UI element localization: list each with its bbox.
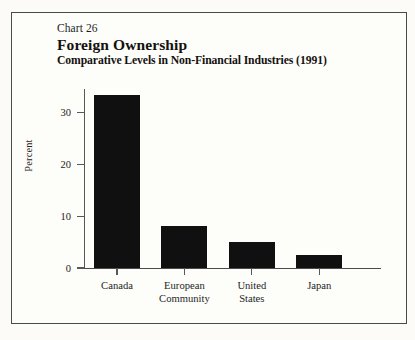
y-axis-tick-label: 20	[31, 159, 71, 170]
x-axis-tick	[116, 268, 117, 275]
y-axis-tick	[77, 216, 84, 217]
bar-united-states	[229, 242, 275, 268]
y-axis-tick	[77, 112, 84, 113]
plot-area: Percent 0102030 CanadaEuropeanCommunityU…	[0, 0, 415, 340]
x-axis-tick-label-line: Japan	[271, 279, 367, 292]
x-axis-tick-label-line: States	[204, 292, 300, 305]
page-canvas: Chart 26 Foreign Ownership Comparative L…	[0, 0, 415, 340]
y-axis-tick-label: 10	[31, 211, 71, 222]
y-axis-tick-label: 30	[31, 107, 71, 118]
x-axis-tick	[319, 268, 320, 275]
x-axis-tick-label: Japan	[271, 279, 367, 292]
bar-canada	[94, 95, 140, 268]
x-axis-tick	[251, 268, 252, 275]
x-axis-tick	[184, 268, 185, 275]
bar-japan	[296, 255, 342, 268]
bar-european-community	[161, 226, 207, 268]
y-axis-tick-label: 0	[31, 263, 71, 274]
y-axis-line	[84, 89, 85, 269]
y-axis-tick	[77, 267, 84, 268]
y-axis-tick	[77, 164, 84, 165]
y-axis-label: Percent	[23, 126, 34, 186]
